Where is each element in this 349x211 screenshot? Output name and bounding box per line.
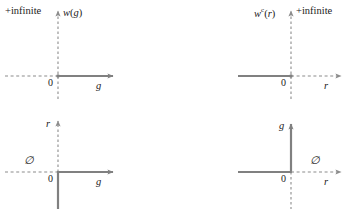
function-label-top-right: wc(r) (254, 7, 275, 19)
origin-label-top-right: 0 (281, 78, 286, 88)
function-label-top-left: w(g) (63, 6, 82, 18)
empty-set-label-bottom-right: ∅ (310, 155, 320, 166)
function-arg-var-top-right: r (268, 8, 272, 19)
origin-dot-top-right (289, 74, 293, 78)
x-axis-label-bottom-right: r (324, 177, 328, 188)
x-axis-label-bottom-left: g (96, 177, 101, 188)
origin-dot-top-left (56, 74, 60, 78)
origin-label-top-left: 0 (48, 78, 53, 88)
x-axis-label-top-right: r (324, 81, 328, 92)
origin-label-bottom-left: 0 (48, 174, 53, 184)
y-axis-label-bottom-right: g (279, 121, 284, 132)
function-arg-var-top-left: g (74, 7, 79, 18)
function-base-top-right: w (254, 8, 261, 19)
function-base-top-left: w (63, 7, 70, 18)
infinite-label-top-right: +infinite (296, 6, 332, 17)
function-arg-top-right: (r) (264, 8, 275, 19)
empty-set-label-bottom-left: ∅ (24, 155, 34, 166)
y-axis-label-bottom-left: r (46, 119, 50, 130)
infinite-label-top-left: +infinite (5, 6, 41, 17)
panel-bottom-right-graphics (238, 124, 341, 209)
x-axis-label-top-left: g (96, 81, 101, 92)
function-arg-top-left: (g) (70, 7, 82, 18)
origin-label-bottom-right: 0 (281, 174, 286, 184)
panel-bottom-left-graphics (5, 121, 113, 209)
